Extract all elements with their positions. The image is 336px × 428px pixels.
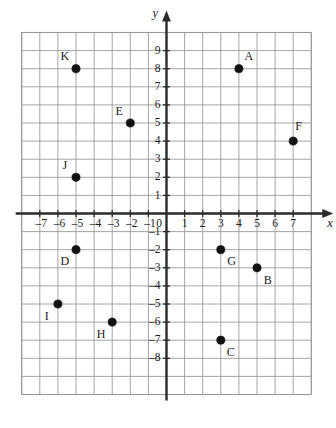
point-marker-c <box>217 336 225 344</box>
y-axis-label: y <box>151 6 159 20</box>
y-tick-label: –5 <box>148 297 161 309</box>
x-tick-label: 5 <box>254 217 260 229</box>
point-label-h: H <box>97 327 106 341</box>
y-axis-arrowhead <box>162 11 171 22</box>
data-points: ABCDEFGHIJK <box>45 49 303 359</box>
y-tick-label: 6 <box>155 98 161 110</box>
point-label-k: K <box>60 49 69 63</box>
y-tick-label: –2 <box>148 243 161 255</box>
point-marker-g <box>217 246 225 254</box>
y-tick-label: 9 <box>155 44 161 56</box>
y-tick-label: 3 <box>155 152 161 164</box>
x-axis-label: x <box>326 216 333 230</box>
x-tick-label: 3 <box>218 217 224 229</box>
x-tick-label: –2 <box>125 217 138 229</box>
data-point-c: C <box>217 336 235 359</box>
x-tick-label: –4 <box>89 217 102 229</box>
point-marker-b <box>253 264 261 272</box>
point-label-c: C <box>227 345 235 359</box>
coordinate-plane-svg: –7–6–5–4–3–2–101234567987654321–1–2–3–4–… <box>0 0 336 428</box>
x-tick-label: –7 <box>35 217 48 229</box>
x-tick-label: 2 <box>200 217 206 229</box>
axis-names: xy <box>151 6 334 230</box>
point-label-g: G <box>227 254 236 268</box>
y-tick-label: 1 <box>155 189 161 201</box>
data-point-g: G <box>217 246 237 269</box>
point-label-e: E <box>115 104 122 118</box>
point-marker-k <box>72 65 80 73</box>
point-label-f: F <box>295 119 302 133</box>
point-marker-f <box>289 137 297 145</box>
y-tick-label: 2 <box>155 170 161 182</box>
y-tick-label: –4 <box>148 279 161 291</box>
point-label-a: A <box>245 49 254 63</box>
y-tick-label: 4 <box>155 134 161 146</box>
x-tick-label: –6 <box>53 217 66 229</box>
data-point-i: I <box>45 300 62 323</box>
y-tick-label: –1 <box>148 225 161 237</box>
data-point-j: J <box>62 158 80 182</box>
y-tick-label: 5 <box>155 116 161 128</box>
y-tick-label: –3 <box>148 261 161 273</box>
x-tick-label: 7 <box>290 217 296 229</box>
point-marker-d <box>72 246 80 254</box>
x-tick-label: –5 <box>71 217 84 229</box>
y-tick-label: 8 <box>155 62 161 74</box>
x-tick-label: 6 <box>272 217 278 229</box>
point-marker-e <box>126 119 134 127</box>
data-point-k: K <box>60 49 80 73</box>
y-tick-label: –6 <box>148 315 161 327</box>
point-label-d: D <box>60 254 69 268</box>
x-tick-label: 1 <box>182 217 188 229</box>
point-marker-j <box>72 173 80 181</box>
data-point-a: A <box>235 49 254 73</box>
point-marker-a <box>235 65 243 73</box>
data-point-e: E <box>115 104 134 128</box>
y-tick-label: 7 <box>155 80 161 92</box>
point-marker-h <box>108 318 116 326</box>
point-marker-i <box>54 300 62 308</box>
point-label-j: J <box>62 158 67 172</box>
point-label-b: B <box>264 273 272 287</box>
x-tick-label: 4 <box>236 217 242 229</box>
y-tick-label: –7 <box>148 333 161 345</box>
coordinate-plane-figure: –7–6–5–4–3–2–101234567987654321–1–2–3–4–… <box>0 0 336 428</box>
y-tick-label: –8 <box>148 351 161 363</box>
data-point-d: D <box>60 246 80 269</box>
point-label-i: I <box>45 309 49 323</box>
data-point-h: H <box>97 318 117 341</box>
data-point-b: B <box>253 264 272 287</box>
x-tick-label: –3 <box>107 217 120 229</box>
